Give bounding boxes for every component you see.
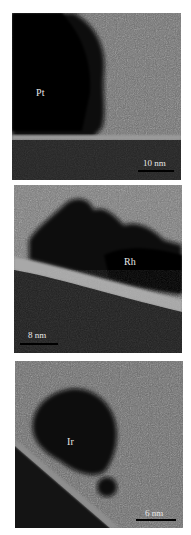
particle-label-rh: Rh xyxy=(124,256,136,267)
scale-bar-label-rh: 8 nm xyxy=(28,330,46,340)
scale-bar-ir xyxy=(136,519,176,521)
tem-panel-pt: Pt 10 nm xyxy=(12,13,181,180)
tem-image-ir xyxy=(15,361,183,528)
scale-bar-rh xyxy=(20,343,58,345)
particle-label-pt: Pt xyxy=(36,87,45,98)
scale-bar-label-pt: 10 nm xyxy=(143,158,166,168)
tem-panel-ir: Ir 6 nm xyxy=(15,361,183,528)
tem-panel-rh: Rh 8 nm xyxy=(14,185,182,353)
scale-bar-pt xyxy=(138,170,174,172)
scale-bar-label-ir: 6 nm xyxy=(145,508,163,518)
tem-image-rh xyxy=(14,185,182,353)
particle-label-ir: Ir xyxy=(67,436,74,447)
